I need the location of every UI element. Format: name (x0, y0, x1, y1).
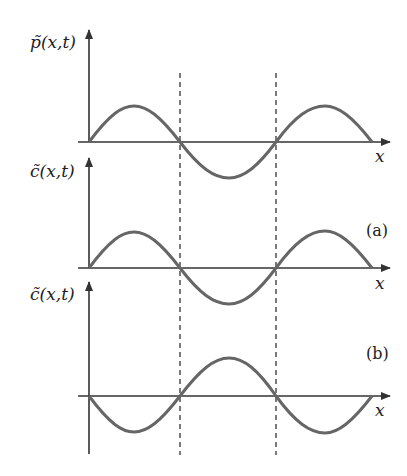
panel-p: p̃(x,t) x (30, 30, 390, 178)
x-label: x (375, 146, 385, 166)
wave-diagram: p̃(x,t) x c̃(x,t) x (a) c̃(x,t) x (b) (0, 0, 407, 476)
panel-tag: (b) (366, 344, 389, 363)
panel-a: c̃(x,t) x (a) (30, 158, 390, 304)
panel-b: c̃(x,t) x (b) (30, 282, 390, 454)
y-label: c̃(x,t) (30, 161, 75, 181)
panel-tag: (a) (366, 221, 388, 240)
x-label: x (375, 273, 385, 293)
y-label: c̃(x,t) (30, 284, 75, 304)
y-label: p̃(x,t) (30, 32, 76, 52)
x-label: x (375, 400, 385, 420)
